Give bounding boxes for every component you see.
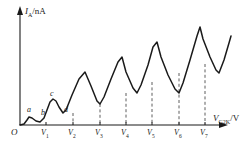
curve-point-label-b: b xyxy=(41,109,45,117)
x-axis-label: VG2K/V xyxy=(213,114,239,125)
x-axis-tick-label-7: V7 xyxy=(200,129,208,139)
tick-label-subscript: 3 xyxy=(100,133,103,139)
x-axis-tick-label-1: V1 xyxy=(41,129,49,139)
x-axis-tick-label-2: V2 xyxy=(68,129,76,139)
x-axis-tick-label-3: V3 xyxy=(95,129,103,139)
origin-label: O xyxy=(11,128,18,137)
valley-drop-lines xyxy=(73,64,205,125)
x-axis-tick-label-6: V6 xyxy=(174,129,182,139)
x-axis-label-unit: /V xyxy=(230,113,239,123)
x-axis-label-subscript: G2K xyxy=(219,119,231,125)
tick-label-subscript: 6 xyxy=(179,133,182,139)
x-axis-tick-label-4: V4 xyxy=(121,129,129,139)
x-axis-tick-label-5: V5 xyxy=(147,129,155,139)
tick-label-subscript: 5 xyxy=(152,133,155,139)
tick-label-subscript: 2 xyxy=(73,133,76,139)
curve-point-label-d: d xyxy=(64,106,68,114)
curve-point-label-c: c xyxy=(50,90,54,98)
y-axis-arrow-icon xyxy=(17,6,23,15)
tick-label-subscript: 7 xyxy=(205,133,208,139)
y-axis-label-unit: /nA xyxy=(32,6,46,16)
y-axis-label: IA/nA xyxy=(25,7,46,18)
curve-point-label-a: a xyxy=(27,106,31,114)
tick-label-subscript: 4 xyxy=(126,133,129,139)
current-voltage-curve xyxy=(20,27,231,125)
tick-label-subscript: 1 xyxy=(46,133,49,139)
